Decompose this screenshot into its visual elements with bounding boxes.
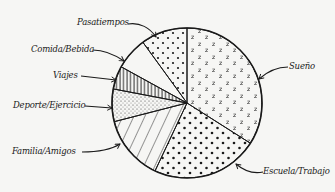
arrow-pasatiempos — [128, 24, 156, 37]
arrow-sueno — [259, 67, 288, 79]
label-deporte: Deporte/Ejercicio — [13, 100, 85, 110]
label-familia: Familia/Amigos — [12, 146, 76, 156]
label-sueno: Sueño — [289, 61, 315, 71]
arrow-viajes — [81, 76, 116, 80]
label-escuela: Escuela/Trabajo — [263, 166, 330, 176]
label-comida: Comida/Bebida — [31, 44, 94, 54]
arrow-escuela — [236, 164, 263, 173]
pie-chart: z z — [0, 0, 335, 192]
arrow-familia — [82, 144, 120, 152]
arrow-deporte — [85, 106, 112, 108]
label-viajes: Viajes — [53, 70, 78, 80]
label-pasatiempos: Pasatiempos — [77, 17, 129, 27]
arrow-comida — [93, 50, 124, 61]
